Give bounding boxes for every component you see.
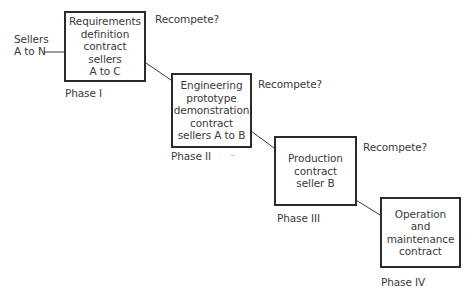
phase-1-box: Requirements definition contract sellers… <box>64 11 146 82</box>
connector-phase3-to-phase4 <box>356 200 380 215</box>
phase-diagram: Sellers A to N Requirements definition c… <box>0 0 473 295</box>
phase-3-label: Phase III <box>277 212 320 224</box>
phase-4-box-text: Operation and maintenance contract <box>387 208 455 258</box>
phase-1-recompete-label: Recompete? <box>155 13 219 25</box>
phase-1-box-text: Requirements definition contract sellers… <box>69 15 141 78</box>
phase-3-recompete-label: Recompete? <box>363 141 427 153</box>
sellers-label: Sellers A to N <box>14 33 49 57</box>
phase-3-box-text: Production contract seller B <box>288 152 343 190</box>
phase-4-label: Phase IV <box>381 276 425 288</box>
connector-phase2-to-phase3 <box>251 131 274 148</box>
phase-4-box: Operation and maintenance contract <box>380 197 461 268</box>
connector-phase1-to-phase2 <box>146 63 171 80</box>
phase-2-box: Engineering prototype demonstration cont… <box>171 73 252 148</box>
phase-1-label: Phase I <box>65 87 102 99</box>
phase-2-box-text: Engineering prototype demonstration cont… <box>174 79 250 142</box>
phase-2-label: Phase II <box>171 150 211 162</box>
phase-3-box: Production contract seller B <box>274 136 357 206</box>
scan-artifact-mark <box>231 155 235 156</box>
phase-2-recompete-label: Recompete? <box>258 78 322 90</box>
